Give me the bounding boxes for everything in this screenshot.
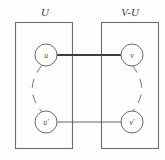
set-label-right: V-U [121, 6, 140, 18]
arc-v-to-v-prime [132, 65, 142, 112]
diagram-canvas: U V-U u v u′ v′ [0, 0, 165, 160]
arc-u-to-u-prime [32, 65, 42, 112]
node-label-u-prime: u′ [43, 118, 49, 127]
node-label-v-prime: v′ [130, 118, 135, 127]
set-label-left: U [41, 6, 50, 18]
diagram-figure: U V-U u v u′ v′ [0, 0, 165, 160]
node-label-u: u [44, 51, 48, 60]
